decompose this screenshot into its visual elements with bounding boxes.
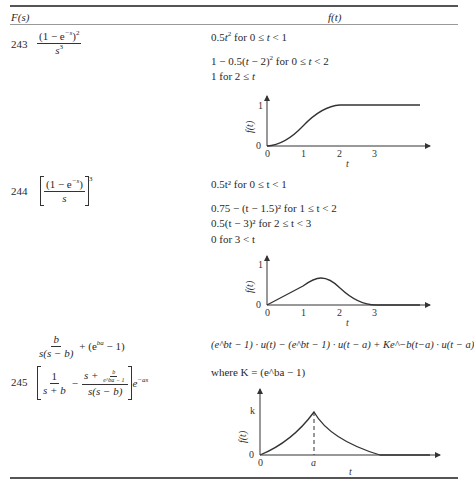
svg-text:a: a	[311, 457, 316, 468]
svg-text:0: 0	[265, 307, 270, 318]
svg-text:0: 0	[265, 148, 270, 159]
svg-text:2: 2	[337, 148, 342, 159]
table-bottom-rule	[10, 477, 458, 479]
svg-text:1: 1	[301, 148, 306, 159]
chart-244: 1 0 0 1 2 3 t f(t)	[244, 256, 430, 328]
svg-text:1: 1	[258, 259, 263, 270]
svg-text:1: 1	[258, 100, 263, 111]
svg-text:t: t	[349, 466, 352, 477]
svg-text:t: t	[346, 158, 349, 169]
svg-text:0: 0	[256, 299, 261, 310]
svg-text:2: 2	[337, 307, 342, 318]
chart-245: k 0 0 a t f(t)	[237, 389, 440, 477]
svg-text:0: 0	[249, 449, 254, 460]
svg-text:f(t): f(t)	[244, 280, 256, 293]
svg-text:t: t	[346, 317, 349, 328]
svg-text:3: 3	[372, 307, 377, 318]
svg-text:0: 0	[258, 457, 263, 468]
svg-text:f(t): f(t)	[244, 120, 256, 133]
chart-243: 1 0 0 1 2 3 t f(t)	[244, 96, 430, 169]
svg-text:k: k	[250, 405, 255, 416]
svg-text:1: 1	[301, 307, 306, 318]
svg-text:3: 3	[372, 148, 377, 159]
svg-text:f(t): f(t)	[237, 430, 249, 443]
svg-text:0: 0	[256, 140, 261, 151]
